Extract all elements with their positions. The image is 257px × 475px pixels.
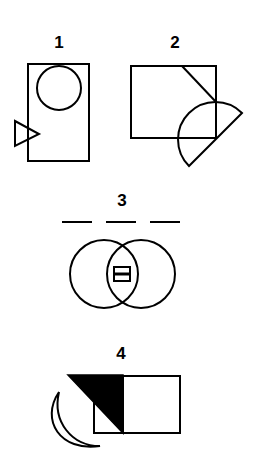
figure-4-black-triangle <box>68 375 123 433</box>
figure-3: 3 <box>62 191 180 308</box>
figure-2-rectangle <box>131 66 216 138</box>
figure-2-diagonal-line <box>182 66 216 102</box>
figure-2-label: 2 <box>170 33 179 52</box>
figure-1-label: 1 <box>54 33 63 52</box>
figure-1-circle <box>37 66 81 110</box>
figure-1: 1 <box>15 33 89 161</box>
figure-3-label: 3 <box>117 191 126 210</box>
puzzle-figures: 1 2 3 4 <box>0 0 257 475</box>
figure-4-label: 4 <box>116 344 126 363</box>
figure-4: 4 <box>52 344 180 447</box>
figure-2-semicircle <box>178 102 242 166</box>
figure-2: 2 <box>131 33 242 166</box>
